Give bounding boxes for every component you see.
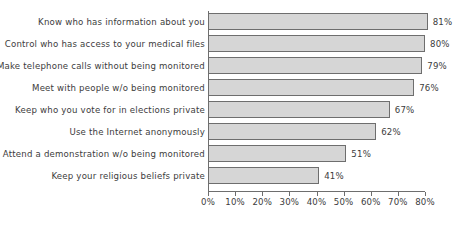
bar <box>208 167 319 184</box>
category-label: Control who has access to your medical f… <box>5 39 205 49</box>
bar-value-label: 79% <box>422 61 447 71</box>
bar-row: Keep who you vote for in elections priva… <box>0 101 465 118</box>
y-axis-line <box>208 11 209 191</box>
x-axis-tick-label: 20% <box>252 197 272 207</box>
bar-row: Control who has access to your medical f… <box>0 35 465 52</box>
bar-row: Meet with people w/o being monitored76% <box>0 79 465 96</box>
bar-row: Know who has information about you81% <box>0 13 465 30</box>
bar-row: Keep your religious beliefs private41% <box>0 167 465 184</box>
x-axis-tick <box>344 192 345 196</box>
bar <box>208 57 422 74</box>
x-axis-tick-label: 60% <box>361 197 381 207</box>
bar <box>208 35 425 52</box>
x-axis-tick-label: 0% <box>201 197 215 207</box>
category-label: Make telephone calls without being monit… <box>0 61 205 71</box>
x-axis-tick <box>235 192 236 196</box>
bar <box>208 145 346 162</box>
bar-value-label: 81% <box>428 17 453 27</box>
x-axis-tick <box>371 192 372 196</box>
x-axis-tick <box>398 192 399 196</box>
bar-value-label: 67% <box>390 105 415 115</box>
bar <box>208 123 376 140</box>
bar-chart: Know who has information about you81%Con… <box>0 0 465 225</box>
bar <box>208 13 428 30</box>
x-axis-tick-label: 50% <box>334 197 354 207</box>
category-label: Keep your religious beliefs private <box>51 171 205 181</box>
bar-row: Attend a demonstration w/o being monitor… <box>0 145 465 162</box>
bar-value-label: 41% <box>319 171 344 181</box>
x-axis-tick <box>208 192 209 196</box>
x-axis-tick-label: 80% <box>415 197 435 207</box>
x-axis-tick <box>262 192 263 196</box>
bar <box>208 79 414 96</box>
x-axis-tick-label: 10% <box>225 197 245 207</box>
category-label: Know who has information about you <box>38 17 205 27</box>
x-axis-tick <box>289 192 290 196</box>
category-label: Keep who you vote for in elections priva… <box>15 105 205 115</box>
bar <box>208 101 390 118</box>
x-axis-tick-label: 70% <box>388 197 408 207</box>
x-axis-tick <box>425 192 426 196</box>
category-label: Use the Internet anonymously <box>69 127 205 137</box>
x-axis-tick-label: 40% <box>307 197 327 207</box>
bar-value-label: 80% <box>425 39 450 49</box>
bar-row: Use the Internet anonymously62% <box>0 123 465 140</box>
bar-value-label: 62% <box>376 127 401 137</box>
category-label: Meet with people w/o being monitored <box>32 83 205 93</box>
bar-value-label: 51% <box>346 149 371 159</box>
bar-value-label: 76% <box>414 83 439 93</box>
x-axis-tick <box>317 192 318 196</box>
bar-row: Make telephone calls without being monit… <box>0 57 465 74</box>
x-axis-tick-label: 30% <box>280 197 300 207</box>
category-label: Attend a demonstration w/o being monitor… <box>3 149 205 159</box>
